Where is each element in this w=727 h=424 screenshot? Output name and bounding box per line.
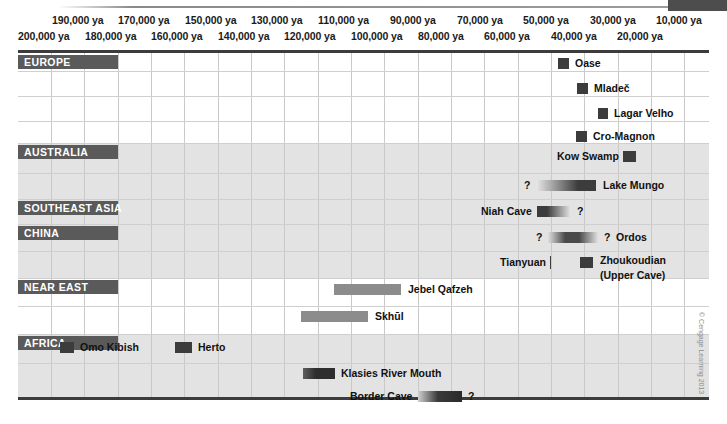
axis-tick-label: 70,000 ya [457,14,503,26]
site-range-bar [537,206,571,217]
site-marker-icon [558,58,569,69]
row-separator [18,363,709,364]
gridline [484,53,485,397]
gridline [318,53,319,397]
uncertainty-marker-right: ? [577,204,583,219]
site-label: Lagar Velho [614,106,674,121]
gridline [618,53,619,397]
region-label-europe: EUROPE [18,55,118,69]
row-separator [18,199,709,200]
site-range-bar [301,311,368,322]
axis-tick-label: 200,000 ya [18,30,70,42]
region-label-australia: AUSTRALIA [18,145,118,159]
site-label: Mladeč [594,81,630,96]
site-range-bar [303,368,335,379]
site-label: Herto [198,340,225,355]
axis-tick-label: 160,000 ya [151,30,203,42]
gridline [251,53,252,397]
site-label: Omo Kibish [80,340,139,355]
axis-tick-label: 100,000 ya [351,30,403,42]
site-label: Kow Swamp [557,149,619,164]
row-separator [18,251,709,252]
axis-tick-label: 50,000 ya [523,14,569,26]
region-label-china: CHINA [18,226,118,240]
site-label: Klasies River Mouth [341,366,441,381]
site-label: Niah Cave [481,204,532,219]
site-label: Zhoukoudian (Upper Cave) [600,253,666,283]
chart-rows: EUROPE AUSTRALIA SOUTHEAST ASIA CHINA NE… [18,53,709,397]
axis-tick-label: 60,000 ya [484,30,530,42]
uncertainty-marker-right: ? [604,230,610,245]
site-label: Jebel Qafzeh [408,282,473,297]
uncertainty-marker-left: ? [524,178,530,193]
timeline-chart: EUROPE AUSTRALIA SOUTHEAST ASIA CHINA NE… [18,50,709,400]
axis-tick-label: 130,000 ya [251,14,303,26]
axis-tick-label: 10,000 ya [656,14,702,26]
gridline [551,53,552,397]
axis-tick-label: 80,000 ya [418,30,464,42]
gridline [651,53,652,397]
row-separator [18,306,709,307]
uncertainty-marker-right: ? [468,389,474,404]
axis-tick-label: 120,000 ya [284,30,336,42]
gridline [284,53,285,397]
site-range-bar [547,232,599,243]
site-marker-icon [175,342,192,353]
axis-tick-label: 90,000 ya [390,14,436,26]
site-marker-icon [623,151,636,162]
row-separator [18,334,709,335]
site-label: Cro-Magnon [593,129,655,144]
header-rule [58,6,668,8]
gridline [451,53,452,397]
axis-tick-label: 20,000 ya [617,30,663,42]
copyright-credit: © Cengage Learning 2013 [698,312,705,394]
axis-tick-label: 40,000 ya [551,30,597,42]
header-accent-bar [668,0,727,11]
gridline [351,53,352,397]
site-label: Oase [575,56,601,71]
region-label-near-east: NEAR EAST [18,280,118,294]
row-separator [18,71,709,72]
site-range-bar [536,180,596,191]
site-label-line2: (Upper Cave) [600,268,666,283]
site-marker-icon [60,342,74,353]
site-label: Border Cave [350,389,412,404]
site-label-line1: Zhoukoudian [600,253,666,268]
axis-tick-label: 180,000 ya [85,30,137,42]
site-range-bar [418,391,462,402]
axis-tick-label: 190,000 ya [52,14,104,26]
site-marker-icon [576,131,587,142]
gridline [518,53,519,397]
site-marker-icon [598,108,608,119]
site-label: Lake Mungo [603,178,664,193]
region-label-southeast-asia: SOUTHEAST ASIA [18,201,118,215]
gridline [384,53,385,397]
site-label: Tianyuan [500,255,546,270]
gridline [584,53,585,397]
row-separator [18,96,709,97]
gridline [684,53,685,397]
site-range-bar [334,284,401,295]
row-separator [18,173,709,174]
row-separator [18,224,709,225]
axis-tick-label: 110,000 ya [318,14,369,26]
site-marker-icon [580,257,593,268]
gridline [418,53,419,397]
axis-tick-label: 30,000 ya [590,14,636,26]
site-label: Skhūl [375,309,404,324]
gridline [151,53,152,397]
site-point-tick-icon [550,256,551,269]
axis-tick-label: 150,000 ya [185,14,237,26]
axis-tick-label: 140,000 ya [218,30,270,42]
time-axis: 190,000 ya 170,000 ya 150,000 ya 130,000… [0,14,727,50]
row-separator [18,121,709,122]
uncertainty-marker-left: ? [536,230,542,245]
axis-tick-label: 170,000 ya [118,14,170,26]
site-label: Ordos [616,230,647,245]
site-marker-icon [577,83,588,94]
